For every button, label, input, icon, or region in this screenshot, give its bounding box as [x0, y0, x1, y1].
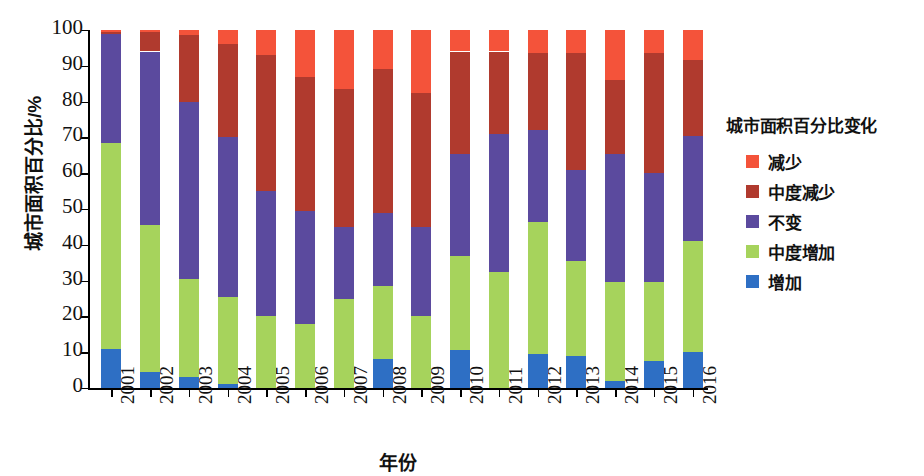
- x-tick-mark: [189, 389, 190, 397]
- bar-segment[interactable]: [683, 60, 703, 135]
- bar-segment[interactable]: [140, 52, 160, 226]
- bar-segment[interactable]: [450, 350, 470, 388]
- y-tick-label: 50: [62, 196, 83, 217]
- y-tick-label: 100: [52, 17, 84, 38]
- bar-segment[interactable]: [101, 30, 121, 32]
- bar-segment[interactable]: [256, 316, 276, 388]
- bar-segment[interactable]: [489, 52, 509, 134]
- bar-segment[interactable]: [644, 361, 664, 388]
- legend-item-label: 中度增加: [768, 239, 835, 264]
- bar-segment[interactable]: [373, 30, 393, 69]
- x-tick-mark: [693, 389, 694, 397]
- bar-segment[interactable]: [101, 143, 121, 349]
- bar-segment[interactable]: [295, 30, 315, 77]
- bar-segment[interactable]: [489, 30, 509, 51]
- x-tick-mark: [654, 389, 655, 397]
- bar-segment[interactable]: [140, 225, 160, 372]
- bar-segment[interactable]: [256, 30, 276, 55]
- bar-segment[interactable]: [218, 137, 238, 296]
- bar-segment[interactable]: [101, 32, 121, 34]
- legend-swatch-icon: [746, 155, 759, 168]
- bar-segment[interactable]: [101, 349, 121, 388]
- bar-segment[interactable]: [605, 154, 625, 283]
- bar-segment[interactable]: [334, 227, 354, 299]
- bar-segment[interactable]: [295, 211, 315, 324]
- x-tick-mark: [111, 389, 112, 397]
- bar-segment[interactable]: [566, 30, 586, 53]
- bar-segment[interactable]: [373, 69, 393, 212]
- bar-segment[interactable]: [373, 286, 393, 359]
- legend-swatch-icon: [746, 215, 759, 228]
- bar-segment[interactable]: [605, 282, 625, 380]
- bar-segment[interactable]: [566, 170, 586, 261]
- x-tick-mark: [538, 389, 539, 397]
- bar-segment[interactable]: [566, 261, 586, 356]
- legend-swatch-icon: [746, 185, 759, 198]
- bar-segment[interactable]: [218, 44, 238, 137]
- bar-segment[interactable]: [644, 30, 664, 53]
- bar-segment[interactable]: [683, 136, 703, 242]
- bar-segment[interactable]: [179, 279, 199, 377]
- x-tick-mark: [344, 389, 345, 397]
- bar-segment[interactable]: [411, 93, 431, 227]
- bar-segment[interactable]: [528, 53, 548, 130]
- plot-area: 0102030405060708090100 20012002200320042…: [88, 30, 708, 388]
- bar-segment[interactable]: [179, 102, 199, 279]
- bar-segment[interactable]: [140, 32, 160, 52]
- bar-segment[interactable]: [218, 297, 238, 385]
- bar-segment[interactable]: [140, 372, 160, 388]
- bar-segment[interactable]: [373, 213, 393, 286]
- bar-segment[interactable]: [644, 173, 664, 282]
- bar-segment[interactable]: [605, 30, 625, 80]
- bar-segment[interactable]: [334, 30, 354, 89]
- bar-segment[interactable]: [179, 35, 199, 101]
- x-axis-title: 年份: [88, 448, 708, 475]
- bar-segment[interactable]: [566, 356, 586, 388]
- bar-segment[interactable]: [411, 30, 431, 93]
- bar-segment[interactable]: [450, 154, 470, 256]
- legend-item[interactable]: 不变: [726, 206, 924, 236]
- bar-segment[interactable]: [411, 316, 431, 388]
- bar-segment[interactable]: [566, 53, 586, 169]
- bar-segment[interactable]: [683, 352, 703, 388]
- legend-item[interactable]: 增加: [726, 266, 924, 296]
- bar-segment[interactable]: [101, 34, 121, 143]
- bar-segment[interactable]: [528, 30, 548, 53]
- bar-segment[interactable]: [295, 77, 315, 211]
- bar-segment[interactable]: [683, 241, 703, 352]
- bar-segment[interactable]: [683, 30, 703, 60]
- bar-segment[interactable]: [334, 299, 354, 389]
- bar-segment[interactable]: [528, 354, 548, 388]
- bar-segment[interactable]: [644, 282, 664, 361]
- legend-item[interactable]: 减少: [726, 146, 924, 176]
- bar-segment[interactable]: [373, 359, 393, 388]
- bar-segment[interactable]: [256, 191, 276, 316]
- bar-segment[interactable]: [256, 55, 276, 191]
- bar-segment[interactable]: [450, 30, 470, 51]
- legend-item[interactable]: 中度减少: [726, 176, 924, 206]
- bar-segment[interactable]: [644, 53, 664, 173]
- legend-item-label: 减少: [768, 149, 802, 174]
- y-tick-label: 70: [62, 124, 83, 145]
- y-axis-line: [88, 30, 90, 388]
- bar-segment[interactable]: [605, 381, 625, 388]
- bar-segment[interactable]: [489, 134, 509, 272]
- bar-segment[interactable]: [218, 30, 238, 44]
- y-tick-label: 10: [62, 339, 83, 360]
- bar-segment[interactable]: [295, 324, 315, 388]
- bar-segment[interactable]: [489, 272, 509, 388]
- bar-segment[interactable]: [605, 80, 625, 153]
- bar-segment[interactable]: [528, 130, 548, 221]
- y-tick-label: 90: [62, 53, 83, 74]
- bar-segment[interactable]: [450, 256, 470, 351]
- bar-segment[interactable]: [179, 377, 199, 388]
- bar-segment[interactable]: [411, 227, 431, 317]
- legend-item-label: 增加: [768, 269, 802, 294]
- legend-item[interactable]: 中度增加: [726, 236, 924, 266]
- bar-segment[interactable]: [179, 30, 199, 35]
- bar-segment[interactable]: [334, 89, 354, 227]
- bar-segment[interactable]: [528, 222, 548, 354]
- bar-segment[interactable]: [450, 52, 470, 154]
- bar-segment[interactable]: [218, 384, 238, 388]
- bar-segment[interactable]: [140, 30, 160, 32]
